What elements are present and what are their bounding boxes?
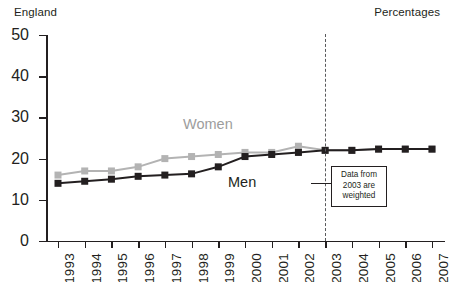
data-point-marker (215, 151, 222, 158)
y-axis-tick-label: 20 (11, 150, 29, 166)
x-axis-tick (138, 241, 139, 248)
y-axis-tick-label: 40 (11, 68, 29, 84)
x-axis-tick-label: 1999 (223, 253, 237, 282)
x-axis-tick-label: 1995 (116, 253, 130, 282)
x-axis-tick (379, 241, 380, 248)
x-axis-tick-label: 2002 (303, 253, 317, 282)
data-point-marker (268, 151, 275, 158)
data-point-marker (135, 163, 142, 170)
y-axis-tick: 30 (39, 117, 46, 118)
annotation-line-3: weighted (335, 191, 383, 202)
series-label-women: Women (183, 117, 233, 132)
x-axis-tick-label: 2003 (330, 253, 344, 282)
y-axis-tick: 10 (39, 200, 46, 201)
x-axis-tick-label: 2006 (410, 253, 424, 282)
chart-container: England Percentages 01020304050 19931994… (0, 0, 450, 282)
y-axis-tick-label: 30 (11, 109, 29, 125)
x-axis-tick (405, 241, 406, 248)
y-axis-tick: 40 (39, 76, 46, 77)
x-axis-tick-label: 1998 (197, 253, 211, 282)
y-axis-tick-label: 50 (11, 27, 29, 43)
data-point-marker (375, 146, 382, 153)
x-axis-tick-label: 1997 (170, 253, 184, 282)
x-axis-tick-label: 1994 (90, 253, 104, 282)
data-point-marker (188, 153, 195, 160)
data-point-marker (402, 146, 409, 153)
x-axis-tick-label: 2001 (277, 253, 291, 282)
y-axis-tick: 50 (39, 35, 46, 36)
plot-area: 01020304050 (46, 35, 444, 241)
x-axis-tick (432, 241, 433, 248)
x-axis-tick-label: 2000 (250, 253, 264, 282)
series-plot (46, 35, 444, 241)
annotation-line-1: Data from (335, 170, 383, 181)
annotation-box: Data from 2003 are weighted (331, 166, 387, 207)
x-axis-tick (218, 241, 219, 248)
data-point-marker (348, 147, 355, 154)
data-point-marker (81, 178, 88, 185)
x-axis-tick (111, 241, 112, 248)
data-point-marker (429, 146, 436, 153)
data-point-marker (295, 143, 302, 150)
x-axis-tick-label: 1993 (63, 253, 77, 282)
x-axis-tick-label: 1996 (143, 253, 157, 282)
data-point-marker (81, 167, 88, 174)
series-label-men: Men (228, 175, 256, 190)
x-axis-tick (352, 241, 353, 248)
y-axis-tick: 0 (39, 241, 46, 242)
y-axis-tick: 20 (39, 159, 46, 160)
data-point-marker (188, 170, 195, 177)
x-axis-tick (245, 241, 246, 248)
annotation-leader-line (311, 183, 331, 184)
weighting-divider-line (325, 34, 326, 241)
data-point-marker (55, 180, 62, 187)
data-point-marker (215, 163, 222, 170)
x-axis-tick-label: 2007 (437, 253, 450, 282)
x-axis-tick (165, 241, 166, 248)
x-axis-tick (325, 241, 326, 248)
data-point-marker (55, 172, 62, 179)
data-point-marker (242, 153, 249, 160)
x-axis-tick (85, 241, 86, 248)
x-axis-tick-label: 2005 (384, 253, 398, 282)
x-axis-tick (272, 241, 273, 248)
data-point-marker (108, 167, 115, 174)
x-axis-tick (192, 241, 193, 248)
data-point-marker (161, 172, 168, 179)
y-axis-tick-label: 0 (20, 233, 29, 249)
data-point-marker (161, 155, 168, 162)
y-axis-tick-label: 10 (11, 191, 29, 207)
annotation-line-2: 2003 are (335, 181, 383, 192)
data-point-marker (108, 176, 115, 183)
region-label: England (14, 6, 57, 18)
x-axis-tick (298, 241, 299, 248)
x-axis-tick (58, 241, 59, 248)
units-label: Percentages (374, 6, 440, 18)
data-point-marker (135, 173, 142, 180)
data-point-marker (295, 149, 302, 156)
x-axis-tick-label: 2004 (357, 253, 371, 282)
